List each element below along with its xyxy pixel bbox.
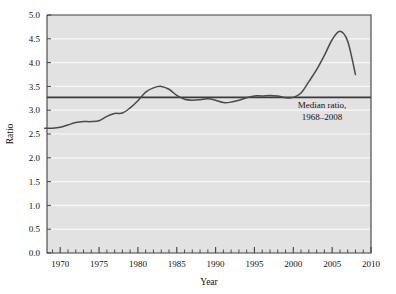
y-tick-label-0.0: 0.0 (29, 248, 41, 258)
y-tick-label-1.5: 1.5 (29, 177, 41, 187)
median-annotation-line-1: Median ratio, (298, 100, 347, 110)
x-tick-label-1995: 1995 (245, 259, 264, 269)
x-tick-label-1990: 1990 (207, 259, 226, 269)
x-axis-title: Year (200, 277, 218, 287)
x-tick-label-1985: 1985 (168, 259, 187, 269)
y-tick-label-2.0: 2.0 (29, 153, 41, 163)
y-tick-label-3.0: 3.0 (29, 105, 41, 115)
y-axis-title: Ratio (5, 123, 15, 144)
y-tick-label-4.5: 4.5 (29, 34, 41, 44)
y-tick-label-5.0: 5.0 (29, 10, 41, 20)
ratio-vs-year-line-chart: 0.00.51.01.52.02.53.03.54.04.55.0 197019… (0, 0, 396, 294)
y-tick-label-4.0: 4.0 (29, 58, 41, 68)
y-tick-label-1.0: 1.0 (29, 201, 41, 211)
x-tick-label-2010: 2010 (362, 259, 381, 269)
median-annotation-line-2: 1968–2008 (302, 112, 343, 122)
x-tick-label-1980: 1980 (129, 259, 148, 269)
x-tick-label-1970: 1970 (51, 259, 70, 269)
x-tick-label-1975: 1975 (90, 259, 109, 269)
y-tick-label-3.5: 3.5 (29, 82, 41, 92)
chart-figure: 0.00.51.01.52.02.53.03.54.04.55.0 197019… (0, 0, 396, 294)
y-tick-label-0.5: 0.5 (29, 224, 41, 234)
x-tick-label-2000: 2000 (284, 259, 303, 269)
y-tick-label-2.5: 2.5 (29, 129, 41, 139)
x-axis-tick-labels: 197019751980198519901995200020052010 (51, 259, 380, 269)
x-tick-label-2005: 2005 (323, 259, 342, 269)
